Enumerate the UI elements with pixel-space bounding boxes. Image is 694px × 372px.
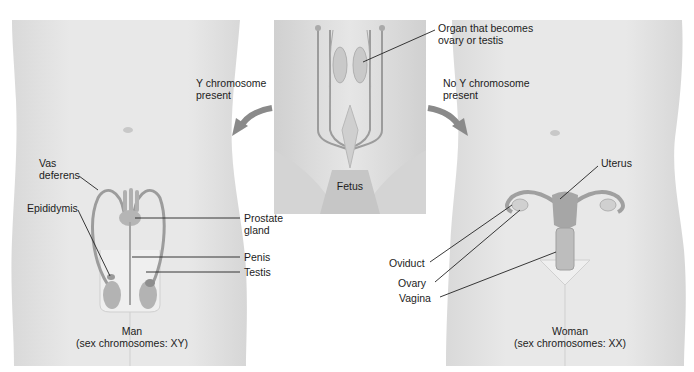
female-caption-line1: Woman xyxy=(500,325,640,337)
prostate-line2: gland xyxy=(244,224,283,236)
epididymis xyxy=(107,274,115,280)
left-ovary xyxy=(512,199,528,211)
vagina-label: Vagina xyxy=(399,292,431,304)
testis-label: Testis xyxy=(244,266,271,278)
male-navel xyxy=(123,127,133,133)
male-caption: Man (sex chromosomes: XY) xyxy=(62,325,202,349)
y-present-line1: Y chromosome xyxy=(196,77,266,89)
epididymis-label: Epididymis xyxy=(27,202,78,214)
right-fetal-gonad xyxy=(353,47,367,83)
right-ovary xyxy=(600,199,616,211)
fetal-organ-label: Organ that becomes ovary or testis xyxy=(438,22,533,46)
uterus xyxy=(552,192,578,229)
male-caption-line1: Man xyxy=(62,325,202,337)
female-caption-line2: (sex chromosomes: XX) xyxy=(500,337,640,349)
female-torso xyxy=(430,20,686,366)
no-y-present-label: No Y chromosome present xyxy=(443,77,530,101)
female-caption: Woman (sex chromosomes: XX) xyxy=(500,325,640,349)
seminal-vesicles xyxy=(123,188,139,212)
female-navel xyxy=(550,130,560,136)
y-present-label: Y chromosome present xyxy=(196,77,266,101)
male-caption-line2: (sex chromosomes: XY) xyxy=(62,337,202,349)
no-y-line1: No Y chromosome xyxy=(443,77,530,89)
male-torso xyxy=(11,20,246,366)
vas-deferens-line1: Vas xyxy=(39,157,80,169)
fetal-organ-label-line1: Organ that becomes xyxy=(438,22,533,34)
vas-deferens-label: Vas deferens xyxy=(39,157,80,181)
penis-label: Penis xyxy=(244,251,270,263)
left-testis xyxy=(103,281,121,309)
oviduct-label: Oviduct xyxy=(389,257,425,269)
prostate-label: Prostate gland xyxy=(244,212,283,236)
left-fetal-gonad xyxy=(333,47,347,83)
uterus-label: Uterus xyxy=(601,157,632,169)
vagina xyxy=(556,228,574,270)
vas-deferens-line2: deferens xyxy=(39,169,80,181)
no-y-line2: present xyxy=(443,89,530,101)
y-present-line2: present xyxy=(196,89,266,101)
sex-determination-diagram: Organ that becomes ovary or testis Fetus… xyxy=(0,0,694,372)
fetus-caption: Fetus xyxy=(322,180,378,192)
ovary-label: Ovary xyxy=(398,277,426,289)
prostate-line1: Prostate xyxy=(244,212,283,224)
fetal-organ-label-line2: ovary or testis xyxy=(438,34,533,46)
